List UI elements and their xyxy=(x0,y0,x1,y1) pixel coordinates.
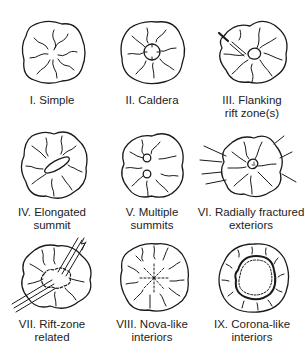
label-line: IV. Elongated xyxy=(2,206,102,219)
elongated-summit-volcano-icon xyxy=(2,122,102,202)
label-rift-zone: VII. Rift-zone related xyxy=(2,318,102,344)
label-caldera: II. Caldera xyxy=(102,94,202,107)
simple-volcano-icon xyxy=(2,8,102,88)
volcano-type-elongated-summit: IV. Elongated summit xyxy=(2,122,102,232)
multiple-summits-volcano-icon xyxy=(102,122,202,202)
radially-fractured-volcano-icon xyxy=(196,122,305,202)
label-elongated-summit: IV. Elongated summit xyxy=(2,206,102,232)
volcano-type-corona: IX. Corona-like interiors xyxy=(202,234,302,349)
nova-volcano-icon xyxy=(102,234,202,314)
label-line: III. Flanking xyxy=(202,94,302,107)
corona-volcano-icon xyxy=(202,234,302,314)
label-line: VIII. Nova-like xyxy=(102,318,202,331)
volcano-type-radial-fractures: VI. Radially fractured exteriors xyxy=(196,122,305,232)
label-line: summit xyxy=(2,219,102,232)
label-simple: I. Simple xyxy=(2,94,102,107)
label-nova: VIII. Nova-like interiors xyxy=(102,318,202,344)
caldera-volcano-icon xyxy=(102,8,202,88)
label-line: interiors xyxy=(102,331,202,344)
label-line: V. Multiple xyxy=(102,206,202,219)
label-line: summits xyxy=(102,219,202,232)
label-line: interiors xyxy=(202,331,302,344)
volcano-type-caldera: II. Caldera xyxy=(102,8,202,118)
volcano-type-nova: VIII. Nova-like interiors xyxy=(102,234,202,349)
flanking-rift-volcano-icon xyxy=(202,8,302,88)
label-radial-fractures: VI. Radially fractured exteriors xyxy=(196,206,305,232)
volcano-type-rift-zone: VII. Rift-zone related xyxy=(2,234,102,349)
label-flanking-rift: III. Flanking rift zone(s) xyxy=(202,94,302,120)
label-line: related xyxy=(2,331,102,344)
label-line: IX. Corona-like xyxy=(202,318,302,331)
label-corona: IX. Corona-like interiors xyxy=(202,318,302,344)
volcano-type-simple: I. Simple xyxy=(2,8,102,118)
label-line: VI. Radially fractured xyxy=(196,206,305,219)
rift-zone-volcano-icon xyxy=(2,234,102,314)
volcano-type-flanking-rift: III. Flanking rift zone(s) xyxy=(202,8,302,118)
label-line: rift zone(s) xyxy=(202,107,302,120)
volcano-type-multiple-summits: V. Multiple summits xyxy=(102,122,202,232)
label-multiple-summits: V. Multiple summits xyxy=(102,206,202,232)
label-line: VII. Rift-zone xyxy=(2,318,102,331)
label-line: exteriors xyxy=(196,219,305,232)
